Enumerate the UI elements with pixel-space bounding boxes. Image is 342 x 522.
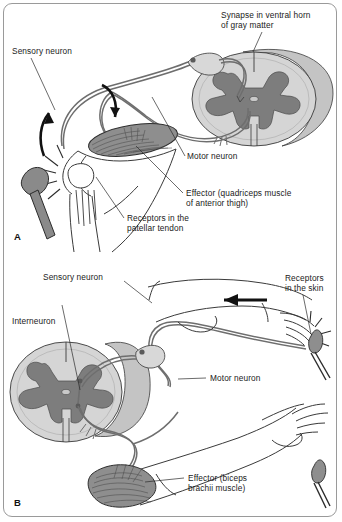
label-receptors-skin: Receptors in the skin xyxy=(285,273,324,293)
panel-b-artwork xyxy=(10,279,331,508)
biceps-muscle xyxy=(88,464,156,507)
leg-outline-a xyxy=(63,149,176,252)
label-synapse-ventral-horn: Synapse in ventral horn of gray matter xyxy=(221,10,310,30)
spinal-cord-b xyxy=(10,342,150,442)
label-interneuron: Interneuron xyxy=(12,316,56,326)
sensory-arrow-b xyxy=(224,294,267,306)
panel-marker-b: B xyxy=(14,497,21,508)
flame-stimulus-upper xyxy=(309,311,331,380)
quadriceps-muscle xyxy=(86,118,180,162)
label-sensory-neuron-a: Sensory neuron xyxy=(12,46,72,56)
label-sensory-neuron-b: Sensory neuron xyxy=(43,272,103,282)
panel-marker-a: A xyxy=(14,231,21,242)
reflex-arc-figure: Synapse in ventral horn of gray matter S… xyxy=(0,0,342,522)
flame-stimulus-lower xyxy=(312,460,330,508)
label-motor-neuron-a: Motor neuron xyxy=(187,151,238,161)
reflex-hammer xyxy=(21,145,63,239)
figure-artwork xyxy=(0,0,342,522)
label-receptors-patellar-tendon: Receptors in the patellar tendon xyxy=(127,213,189,233)
label-motor-neuron-b: Motor neuron xyxy=(210,373,261,383)
label-effector-biceps: Effector (biceps brachii muscle) xyxy=(188,473,247,493)
label-effector-quadriceps: Effector (quadriceps muscle of anterior … xyxy=(186,188,291,208)
